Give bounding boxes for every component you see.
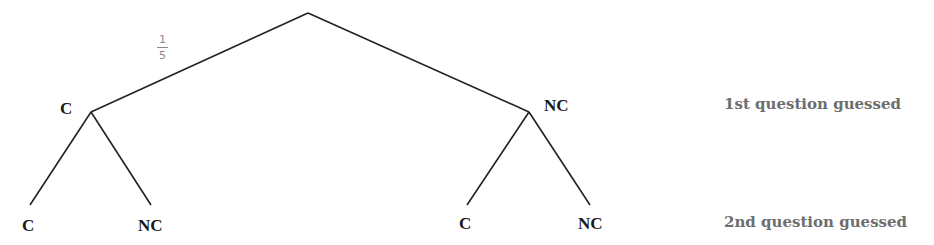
edge-c-to-c xyxy=(30,112,91,205)
edge-root-to-c xyxy=(91,13,308,112)
level1-description: 1st question guessed xyxy=(724,97,901,112)
node-level2-nc-c: C xyxy=(459,215,471,232)
edge-nc-to-nc xyxy=(529,112,590,205)
edge-nc-to-c xyxy=(467,112,529,205)
level2-description: 2nd question guessed xyxy=(724,215,907,230)
edge-root-to-nc xyxy=(308,13,529,112)
fraction-numerator: 1 xyxy=(159,34,166,45)
branch-probability-fraction: 1 5 xyxy=(157,34,168,61)
node-level1-c: C xyxy=(60,100,72,117)
fraction-denominator: 5 xyxy=(159,50,166,61)
probability-tree-diagram: 1 5 C NC C NC C NC 1st question guessed … xyxy=(0,0,934,245)
node-level2-nc-nc: NC xyxy=(578,215,603,232)
fraction-bar xyxy=(157,47,168,48)
node-level1-nc: NC xyxy=(544,97,569,114)
node-level2-c-c: C xyxy=(22,217,34,234)
edge-c-to-nc xyxy=(91,112,151,205)
node-level2-c-nc: NC xyxy=(138,217,163,234)
tree-edges xyxy=(0,0,934,245)
